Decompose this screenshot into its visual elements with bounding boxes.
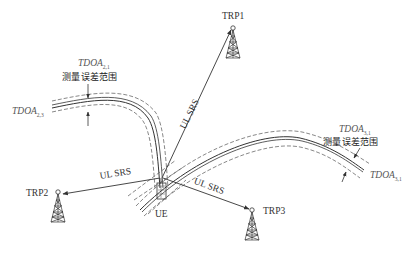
tower-icon-trp1 [226, 26, 240, 58]
trp3-label: TRP3 [263, 206, 285, 216]
tower-icon-trp3 [245, 208, 259, 240]
ue-label: UE [155, 209, 168, 219]
tdoa21-error-label: 测量误差范围 [62, 70, 118, 83]
trp1-label: TRP1 [222, 11, 244, 21]
tdoa31-error-label: 测量误差范围 [323, 135, 379, 148]
trp2-label: TRP2 [26, 188, 48, 198]
tdoa23-label: TDOA2,3 [12, 106, 44, 118]
link-ue-trp2 [63, 178, 160, 194]
tdoa21-label: TDOA2,1 [78, 58, 110, 70]
tdoa31-right-label: TDOA3,1 [370, 170, 402, 182]
tower-icon-trp2 [51, 190, 65, 222]
